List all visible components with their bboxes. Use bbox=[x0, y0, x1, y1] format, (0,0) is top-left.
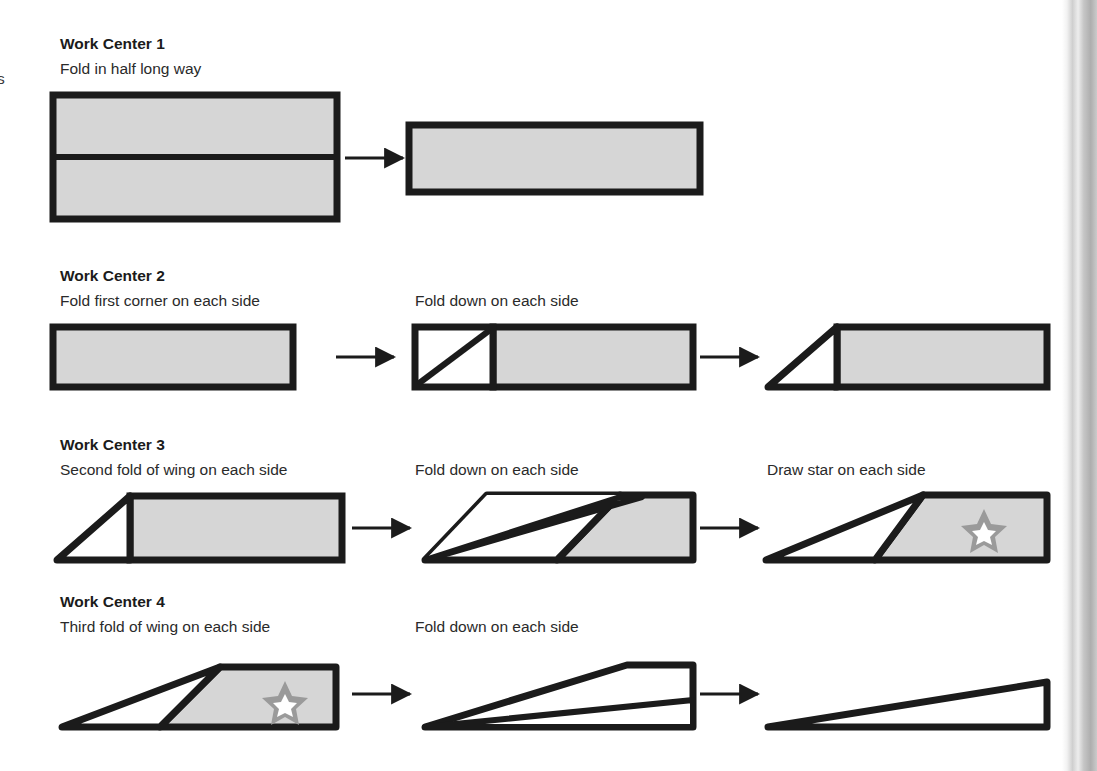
work-center-1-title: Work Center 1 bbox=[60, 35, 165, 52]
wc1-step1-shape bbox=[53, 95, 337, 219]
work-center-3-title: Work Center 3 bbox=[60, 436, 165, 453]
work-center-1-subtitle: Fold in half long way bbox=[60, 60, 202, 77]
wc3-step2-label: Fold down on each side bbox=[415, 461, 579, 478]
wc4-step2-label: Fold down on each side bbox=[415, 618, 579, 635]
wc4-step1-shape bbox=[62, 667, 336, 727]
page-root: s Work Center 1 Fold in half long way Wo… bbox=[0, 0, 1097, 771]
wc3-step2-shape bbox=[425, 495, 693, 560]
work-center-2-subtitle: Fold first corner on each side bbox=[60, 292, 260, 309]
work-center-2-title: Work Center 2 bbox=[60, 267, 165, 284]
wc2-step3-shape bbox=[768, 327, 1047, 387]
wc4-step2-shape bbox=[425, 665, 693, 727]
left-edge-text-fragment: s bbox=[0, 70, 5, 87]
wc1-step2-shape bbox=[409, 125, 700, 192]
wc3-step1-shape bbox=[57, 496, 342, 560]
diagram-canvas: s Work Center 1 Fold in half long way Wo… bbox=[0, 0, 1097, 771]
wc3-step3-label: Draw star on each side bbox=[767, 461, 926, 478]
wc3-step3-shape bbox=[766, 495, 1047, 560]
work-center-4-title: Work Center 4 bbox=[60, 593, 165, 610]
work-center-3-subtitle: Second fold of wing on each side bbox=[60, 461, 288, 478]
wc2-step2-shape bbox=[415, 327, 693, 387]
wc2-step2-label: Fold down on each side bbox=[415, 292, 579, 309]
work-center-4-subtitle: Third fold of wing on each side bbox=[60, 618, 270, 635]
scan-edge-band bbox=[1062, 0, 1097, 771]
wc4-step3-shape bbox=[768, 682, 1047, 727]
wc2-step1-shape bbox=[53, 327, 293, 387]
